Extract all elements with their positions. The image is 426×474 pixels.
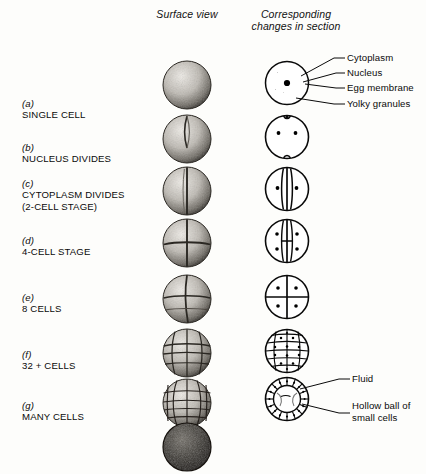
leader-line-yolky-granules <box>296 98 345 104</box>
section-view-two-nuclei-section <box>262 112 312 162</box>
surface-view-two-lobe-sphere <box>160 112 214 166</box>
stage-label-f: (f) 32 + CELLS <box>22 337 150 372</box>
stage-index-b: (b) <box>22 142 34 153</box>
stage-label-d: (d) 4-CELL STAGE <box>22 223 150 258</box>
section-view-morula-section <box>262 326 312 376</box>
section-view-blastula-section <box>262 374 312 424</box>
annotation-hollow-ball-of-cells: Hollow ball of small cells <box>352 400 424 423</box>
annotation-yolky-granules: Yolky granules <box>347 98 410 110</box>
stage-text-b: NUCLEUS DIVIDES <box>22 153 111 164</box>
stage-index-c: (c) <box>22 178 34 189</box>
stage-text-e: 8 CELLS <box>22 303 61 314</box>
surface-view-two-cell-sphere <box>160 164 214 218</box>
leader-line-cytoplasm <box>301 58 345 76</box>
section-view-two-cell-section <box>262 164 312 214</box>
stage-label-b: (b) NUCLEUS DIVIDES <box>22 130 150 165</box>
stage-label-a: (a) SINGLE CELL <box>22 86 150 121</box>
surface-view-four-cell-sphere <box>160 216 214 270</box>
stage-index-f: (f) <box>22 349 32 360</box>
leader-line-egg-membrane <box>305 84 345 88</box>
stage-text-c: CYTOPLASM DIVIDES (2-CELL STAGE) <box>22 189 125 212</box>
cell-division-figure: Surface view Corresponding changes in se… <box>0 0 426 474</box>
column-header-section-view: Corresponding changes in section <box>248 8 344 32</box>
stage-index-g: (g) <box>22 400 34 411</box>
leader-line-hollow-ball <box>302 404 350 413</box>
stage-label-e: (e) 8 CELLS <box>22 280 150 315</box>
section-view-four-cell-section <box>262 216 312 266</box>
surface-view-eight-cell-sphere <box>160 272 214 326</box>
stage-index-a: (a) <box>22 98 34 109</box>
stage-text-g: MANY CELLS <box>22 411 84 422</box>
surface-view-thirty-two-cell-sphere <box>160 326 214 380</box>
section-view-single-cell-section <box>262 58 312 108</box>
section-view-eight-cell-section <box>262 272 312 322</box>
annotation-egg-membrane: Egg membrane <box>347 82 414 94</box>
stage-index-d: (d) <box>22 235 34 246</box>
stage-text-f: 32 + CELLS <box>22 360 76 371</box>
surface-view-single-sphere-stippled <box>160 58 214 112</box>
annotation-cytoplasm: Cytoplasm <box>347 52 393 64</box>
annotation-fluid: Fluid <box>352 373 373 385</box>
stage-text-d: 4-CELL STAGE <box>22 246 90 257</box>
surface-view-dense-many-cell-sphere <box>160 420 214 474</box>
leader-line-fluid <box>300 379 350 389</box>
surface-view-many-cell-sphere <box>160 376 214 430</box>
stage-label-c: (c) CYTOPLASM DIVIDES (2-CELL STAGE) <box>22 166 150 212</box>
annotation-nucleus: Nucleus <box>347 67 382 79</box>
column-header-surface-view: Surface view <box>148 8 226 20</box>
stage-text-a: SINGLE CELL <box>22 109 86 120</box>
leader-line-nucleus <box>303 73 345 82</box>
stage-label-g: (g) MANY CELLS <box>22 388 150 423</box>
stage-index-e: (e) <box>22 292 34 303</box>
